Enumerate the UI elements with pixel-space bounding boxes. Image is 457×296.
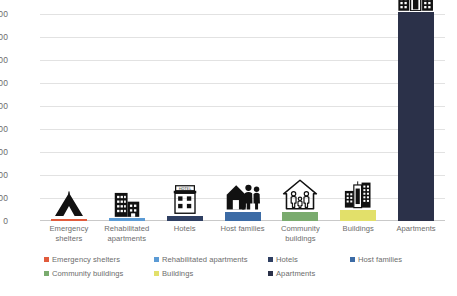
y-axis-tick-label: 1600 [0, 32, 8, 42]
legend-label: Buildings [162, 269, 193, 278]
y-axis-tick-label: 600 [0, 147, 8, 157]
bar-chart: 020040060080010001200140016001800 HOTEL [0, 0, 457, 296]
legend-swatch [44, 271, 49, 276]
x-axis-label: Apartments [387, 224, 445, 234]
y-axis-tick-label: 200 [0, 193, 8, 203]
bars-layer: HOTEL [40, 14, 445, 221]
chart-legend: Emergency sheltersRehabilitated apartmen… [44, 255, 444, 283]
legend-item[interactable]: Hotels [268, 255, 298, 264]
legend-label: Emergency shelters [52, 255, 120, 264]
apartment-towers-icon [397, 0, 435, 11]
legend-swatch [154, 271, 159, 276]
y-axis-tick-label: 1400 [0, 55, 8, 65]
bar[interactable] [167, 216, 203, 221]
y-axis-tick-label: 1800 [0, 9, 8, 19]
bar-slot [282, 212, 318, 221]
legend-swatch [44, 257, 49, 262]
x-axis-label: Rehabilitated apartments [98, 224, 156, 243]
x-axis-label: Emergency shelters [40, 224, 98, 243]
legend-item[interactable]: Apartments [268, 269, 315, 278]
y-axis-tick-label: 1200 [0, 78, 8, 88]
legend-item[interactable]: Community buildings [44, 269, 123, 278]
legend-row: Emergency sheltersRehabilitated apartmen… [44, 255, 444, 269]
svg-text:HOTEL: HOTEL [178, 187, 191, 191]
legend-label: Community buildings [52, 269, 123, 278]
bar-slot [225, 212, 261, 221]
bar-slot [398, 12, 434, 221]
bar-slot [340, 210, 376, 222]
legend-label: Apartments [276, 269, 315, 278]
bar[interactable] [340, 210, 376, 222]
x-axis-label: Community buildings [271, 224, 329, 243]
bar[interactable] [282, 212, 318, 221]
legend-item[interactable]: Host families [350, 255, 402, 264]
legend-label: Rehabilitated apartments [162, 255, 248, 264]
two-buildings-icon [113, 191, 141, 217]
x-axis-label: Hotels [156, 224, 214, 234]
house-outline-with-people-icon [282, 178, 319, 211]
legend-label: Host families [358, 255, 402, 264]
legend-item[interactable]: Emergency shelters [44, 255, 120, 264]
tent-icon [52, 190, 86, 218]
bar[interactable] [225, 212, 261, 221]
legend-row: Community buildingsBuildingsApartments [44, 269, 444, 283]
legend-label: Hotels [276, 255, 298, 264]
legend-swatch [154, 257, 159, 262]
legend-swatch [268, 271, 273, 276]
x-axis-category-labels: Emergency sheltersRehabilitated apartmen… [40, 224, 445, 252]
y-axis-tick-label: 1000 [0, 101, 8, 111]
bar[interactable] [398, 12, 434, 221]
x-axis-label: Host families [214, 224, 272, 234]
legend-swatch [268, 257, 273, 262]
plot-area: HOTEL [40, 14, 445, 221]
y-axis-tick-label: 800 [0, 124, 8, 134]
bar[interactable] [51, 219, 87, 221]
house-with-family-icon [224, 181, 262, 211]
legend-item[interactable]: Rehabilitated apartments [154, 255, 248, 264]
y-axis-tick-label: 0 [3, 216, 8, 226]
bar-slot [167, 216, 203, 221]
y-axis-tick-label: 400 [0, 170, 8, 180]
legend-swatch [350, 257, 355, 262]
x-axis-label: Buildings [329, 224, 387, 234]
bar-slot [109, 218, 145, 221]
legend-item[interactable]: Buildings [154, 269, 193, 278]
city-buildings-icon [343, 180, 374, 209]
bar[interactable] [109, 218, 145, 221]
bar-slot [51, 219, 87, 221]
hotel-icon: HOTEL [170, 184, 200, 215]
